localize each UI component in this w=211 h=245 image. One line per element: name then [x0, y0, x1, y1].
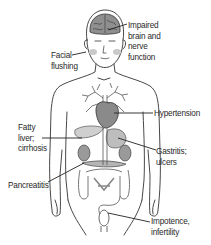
- genitals-icon: [99, 210, 109, 232]
- label-liver: Fatty liver; cirrhosis: [18, 122, 47, 154]
- heart-icon: [96, 102, 118, 128]
- liver-icon: [75, 126, 104, 138]
- label-pancreas: Pancreatitis: [8, 180, 49, 191]
- label-heart: Hypertension: [154, 108, 200, 119]
- label-reproductive: Impotence, infertility: [151, 216, 190, 237]
- torso-outline: [50, 64, 96, 216]
- label-face: Facial flushing: [51, 50, 78, 71]
- label-stomach: Gastritis; ulcers: [156, 146, 187, 167]
- brain-icon: [90, 14, 120, 34]
- cheek-flush: [89, 49, 97, 55]
- label-brain: Impaired brain and nerve function: [128, 20, 161, 62]
- intestines-icon: [79, 169, 130, 214]
